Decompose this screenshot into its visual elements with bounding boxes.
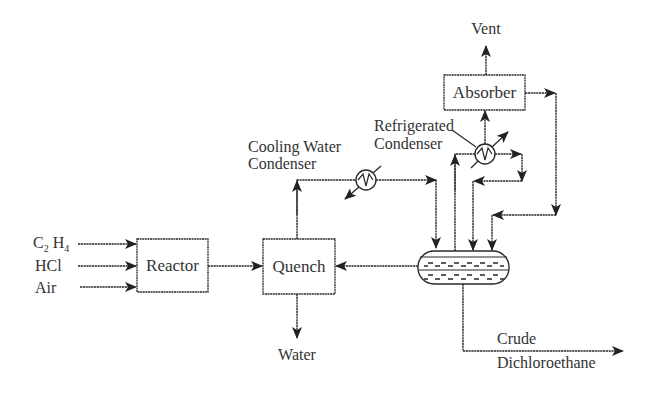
cw-condenser-label-line1: Cooling Water — [248, 138, 342, 156]
svg-text:C2H4: C2H4 — [33, 234, 69, 254]
refrigerated-condenser-icon — [471, 132, 508, 168]
drum-vapor-line — [455, 154, 475, 251]
feed-c2h4-sub2: 4 — [64, 243, 69, 254]
quench-overhead-line — [297, 180, 356, 239]
separator-drum — [418, 251, 509, 284]
reactor-label: Reactor — [146, 256, 199, 275]
feed-c2h4-base: C — [33, 234, 44, 251]
feed-hcl-label: HCl — [35, 257, 62, 274]
cooling-water-condenser-icon — [345, 166, 381, 199]
refrig-condenser-label-line2: Condenser — [374, 135, 443, 152]
product-label-line2: Dichloroethane — [497, 354, 596, 371]
absorber-label: Absorber — [453, 83, 517, 102]
product-label-line1: Crude — [497, 330, 536, 347]
feed-c2h4-sub1: 2 — [44, 243, 49, 254]
cw-condenser-label-line2: Condenser — [248, 155, 317, 172]
water-label: Water — [278, 346, 316, 363]
process-flow-diagram: C2H4 HCl Air Reactor Quench Water Coolin… — [0, 0, 666, 394]
refrigerated-condenser-leader — [452, 130, 476, 147]
quench-label: Quench — [273, 257, 326, 276]
feed-air-label: Air — [35, 279, 57, 296]
vent-label: Vent — [471, 20, 501, 37]
feed-c2h4-base2: H — [53, 234, 65, 251]
feed-c2h4: C2H4 — [33, 234, 69, 254]
refrig-condenser-label-line1: Refrigerated — [374, 117, 454, 135]
